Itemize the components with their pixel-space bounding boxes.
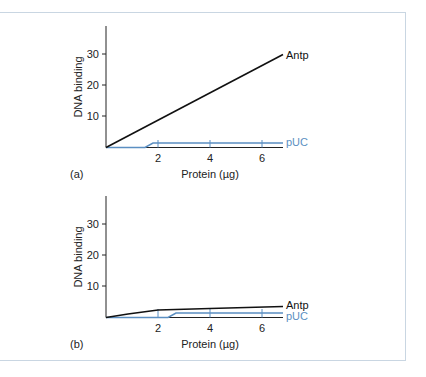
series-line-puc [106,143,283,148]
x-tick-label: 2 [155,152,161,164]
series-line-antp [106,307,283,318]
panel-label: (a) [70,168,83,180]
y-tick-label: 30 [87,48,99,60]
chart-panel-a: 30 20 10 2 4 6 Protein (µg) DNA binding … [70,26,309,180]
y-tick-label: 20 [87,79,99,91]
y-tick-label: 10 [87,280,99,292]
series-label-puc: pUC [286,136,308,148]
series-label-puc: pUC [286,310,308,322]
series-label-antp: Antp [286,49,309,61]
x-tick-label: 2 [155,322,161,334]
panel-label: (b) [70,338,83,350]
chart-panel-b: 30 20 10 2 4 6 Protein (µg) DNA binding … [70,196,309,350]
y-tick-label: 30 [87,218,99,230]
x-tick-label: 4 [207,322,213,334]
x-tick-label: 6 [259,322,265,334]
y-tick-label: 10 [87,110,99,122]
x-axis-title: Protein (µg) [181,168,239,180]
x-tick-label: 6 [259,152,265,164]
y-axis-title: DNA binding [72,226,84,287]
series-line-antp [106,55,283,148]
figure-canvas: 30 20 10 2 4 6 Protein (µg) DNA binding … [0,0,426,377]
y-axis-title: DNA binding [72,56,84,117]
x-tick-label: 4 [207,152,213,164]
y-tick-label: 20 [87,249,99,261]
x-axis-title: Protein (µg) [181,338,239,350]
